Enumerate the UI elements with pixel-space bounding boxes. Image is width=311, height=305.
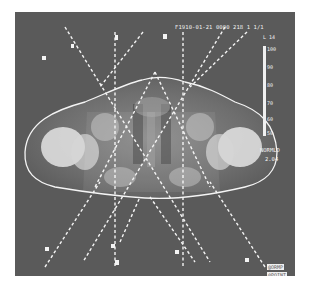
dose-scale-tick: 100 bbox=[267, 46, 276, 52]
dose-scale-tick: 60 bbox=[267, 116, 273, 122]
header-extra-text: 1 1/1 bbox=[247, 24, 264, 30]
header-id-text: F1910-01-21 0000 218 bbox=[175, 24, 243, 30]
ct-scan-graphic bbox=[15, 12, 295, 276]
scale-level-label: L 14 bbox=[263, 34, 275, 40]
dose-scale-tick: 50 bbox=[267, 130, 273, 136]
credit-text: Strahlenabt. UFK Wuerzburg bbox=[150, 275, 252, 276]
dose-scale-bar bbox=[263, 46, 266, 136]
header-id-line: F1910-01-21 0000 218 1 1/1 bbox=[175, 24, 264, 30]
ct-image-panel: F1910-01-21 0000 218 1 1/1 L 14 100 90 8… bbox=[15, 12, 295, 276]
legend-item-point: @POINT bbox=[267, 272, 287, 276]
dose-scale-tick: 70 bbox=[267, 100, 273, 106]
norm-label: NORMLD bbox=[260, 147, 280, 153]
legend-item-ormp: @ORMP bbox=[267, 264, 284, 270]
dose-scale-tick: 80 bbox=[267, 82, 273, 88]
dose-scale-tick: 90 bbox=[267, 64, 273, 70]
norm-value: 2.04 bbox=[265, 156, 278, 162]
